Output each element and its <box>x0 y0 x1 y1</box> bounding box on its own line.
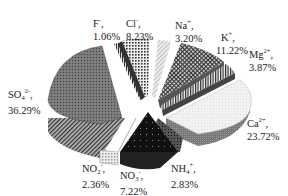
label-no2: NO2-, 2.36% <box>82 158 109 191</box>
label-ca: Ca2+, 23.72% <box>247 113 279 143</box>
label-nh4: NH4+, 2.83% <box>171 158 198 191</box>
slice-so4 <box>48 46 125 158</box>
label-so4: SO42-, 36.29% <box>8 84 40 117</box>
label-k: K+, 11.22% <box>216 27 248 57</box>
label-no3: NO3-, 7.22% <box>120 165 147 196</box>
label-na: Na+, 3.20% <box>175 15 202 45</box>
label-f: F-, 1.06% <box>93 13 120 43</box>
label-mg: Mg2+, 3.87% <box>249 44 276 74</box>
slice-cl <box>118 37 150 100</box>
label-cl: Cl-, 8.23% <box>126 13 153 43</box>
